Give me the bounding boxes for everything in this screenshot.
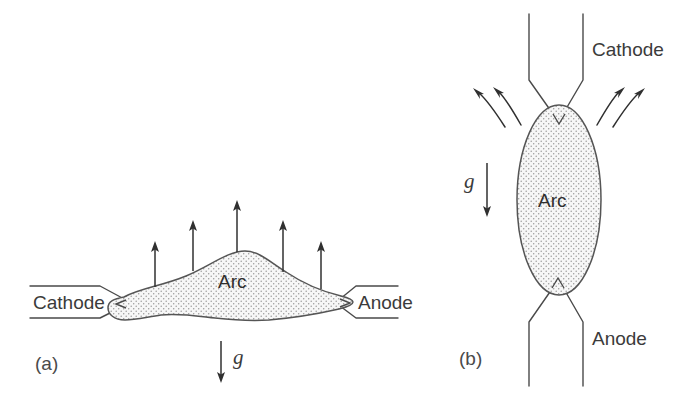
buoyancy-arrow <box>189 220 197 271</box>
anode-label-b: Anode <box>592 328 647 349</box>
panel-caption-a: (a) <box>35 353 58 374</box>
electrode-cathode-b <box>529 14 583 118</box>
anode-left-edge-b <box>529 284 558 386</box>
electrode-anode-b <box>529 284 583 386</box>
cathode-left-edge-b <box>529 14 559 118</box>
arc-label-b: Arc <box>538 190 567 211</box>
cathode-right-edge-b <box>559 14 583 118</box>
arc-label-a: Arc <box>218 271 247 292</box>
panel-caption-b: (b) <box>459 348 482 369</box>
buoyancy-arrow <box>151 241 159 287</box>
cathode-label-b: Cathode <box>592 39 664 60</box>
buoyancy-arrow <box>233 200 241 252</box>
anode-right-edge-b <box>558 284 583 386</box>
anode-label-a: Anode <box>358 292 413 313</box>
convection-arrow-left-inner <box>493 87 521 125</box>
panel-b: Cathode Anode Arc g (b) <box>459 14 664 386</box>
arc-diagram-figure: Cathode Anode Arc g (a) <box>0 0 697 397</box>
convection-arrow-right-inner <box>597 87 625 125</box>
gravity-arrow-b <box>483 163 491 217</box>
diagram-canvas: Cathode Anode Arc g (a) <box>0 0 697 397</box>
buoyancy-arrow <box>279 220 287 272</box>
gravity-arrow-a <box>217 341 225 383</box>
gravity-label-a: g <box>233 345 244 369</box>
panel-a: Cathode Anode Arc g (a) <box>30 200 413 383</box>
gravity-label-b: g <box>464 169 475 193</box>
cathode-label-a: Cathode <box>33 292 105 313</box>
buoyancy-arrow <box>317 241 325 289</box>
